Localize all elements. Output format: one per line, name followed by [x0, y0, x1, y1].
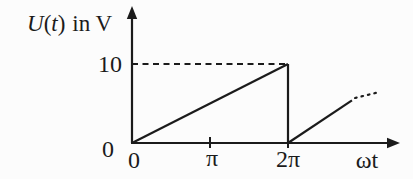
- y-axis-variable: U: [27, 11, 44, 36]
- x-tick-label-2pi: 2π: [276, 147, 300, 171]
- y-tick-label-10: 10: [80, 52, 122, 76]
- sawtooth-voltage-chart: U(t)in V 10 0 0 π 2π ωt: [0, 0, 413, 179]
- paren-close: ): [58, 11, 66, 36]
- x-tick-label-pi: π: [206, 146, 218, 170]
- x-tick-label-0: 0: [128, 148, 140, 172]
- y-axis-title: U(t)in V: [27, 12, 112, 35]
- x-axis-title: ωt: [356, 148, 378, 172]
- y-axis-unit: in V: [72, 11, 112, 36]
- y-tick-label-0: 0: [84, 137, 114, 161]
